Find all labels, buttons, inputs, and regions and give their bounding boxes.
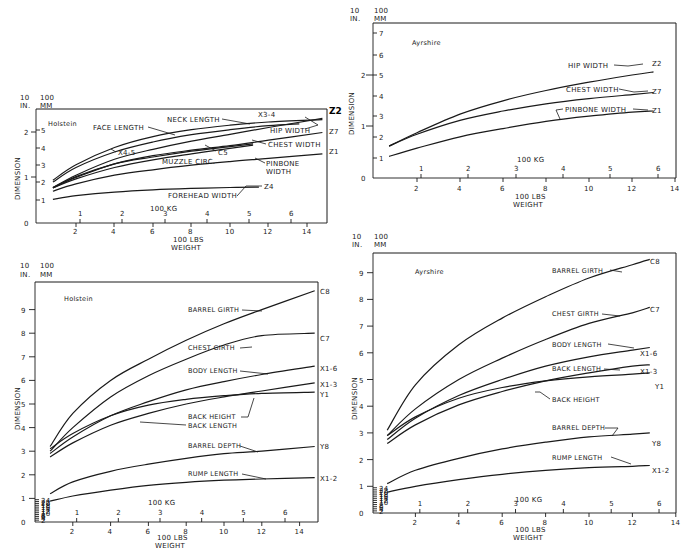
svg-text:CHEST WIDTH: CHEST WIDTH	[566, 86, 619, 94]
y-units-in-label: IN.	[20, 271, 30, 279]
y-units-mm-label: MM	[374, 241, 387, 249]
svg-text:6: 6	[289, 210, 294, 218]
y-axis-label: DIMENSION	[14, 157, 22, 200]
svg-text:HIP WIDTH: HIP WIDTH	[270, 127, 310, 135]
svg-text:4: 4	[41, 145, 46, 153]
svg-text:X1-2: X1-2	[652, 467, 669, 475]
svg-text:8: 8	[188, 228, 193, 236]
plot-frame	[35, 282, 318, 522]
svg-text:0: 0	[24, 220, 29, 228]
svg-text:Z1: Z1	[652, 107, 662, 115]
svg-text:6: 6	[499, 519, 504, 527]
svg-text:9: 9	[359, 270, 364, 278]
svg-text:6: 6	[145, 528, 150, 536]
plot-frame	[373, 253, 676, 513]
x2-axis-label: 100 KG	[515, 496, 542, 504]
svg-text:10: 10	[219, 528, 229, 536]
svg-text:1: 1	[24, 174, 29, 182]
svg-text:0: 0	[361, 175, 366, 183]
x-kg-ticks: 1 2 3 4 5 6	[419, 165, 661, 178]
svg-text:MUZZLE CIRC.: MUZZLE CIRC.	[162, 158, 215, 166]
svg-text:6: 6	[21, 377, 26, 385]
svg-text:3: 3	[379, 113, 384, 121]
y-axis-label: DIMENSION	[348, 92, 356, 135]
series-labels: BARREL GIRTH C8 CHEST GIRTH C7 BODY LENG…	[140, 288, 338, 483]
svg-text:FACE LENGTH: FACE LENGTH	[93, 124, 144, 132]
svg-text:14: 14	[670, 185, 680, 193]
chart-ayrshire-widths: 10 IN. 100 MM Ayrshire DIMENSION 0 1 2 1…	[348, 7, 680, 209]
svg-text:FOREHEAD WIDTH: FOREHEAD WIDTH	[168, 192, 237, 200]
svg-text:2: 2	[412, 519, 417, 527]
svg-text:6: 6	[150, 228, 155, 236]
svg-text:BACK LENGTH: BACK LENGTH	[552, 365, 601, 373]
chart-holstein-lengths: 10 IN. 100 MM Holstein DIMENSION 0123456…	[14, 262, 338, 550]
y-axis-label: DIMENSION	[351, 377, 359, 420]
y-units-mm-value: 100	[40, 262, 54, 270]
svg-text:C8: C8	[650, 258, 660, 266]
curves	[50, 291, 315, 502]
svg-text:2: 2	[414, 185, 419, 193]
breed-label: Ayrshire	[415, 268, 444, 276]
svg-text:6: 6	[500, 185, 505, 193]
svg-text:6: 6	[283, 509, 288, 517]
series-line	[389, 93, 653, 147]
svg-text:1: 1	[359, 483, 364, 491]
svg-text:1: 1	[361, 123, 366, 131]
svg-text:CHEST GIRTH: CHEST GIRTH	[188, 344, 235, 352]
svg-text:2: 2	[120, 210, 125, 218]
y-units-in-label: IN.	[350, 15, 360, 23]
svg-text:4: 4	[561, 165, 566, 173]
svg-text:2: 2	[73, 228, 78, 236]
svg-text:5: 5	[241, 509, 246, 517]
svg-text:3: 3	[514, 165, 519, 173]
svg-text:4: 4	[561, 500, 566, 508]
y-units-in-label: IN.	[352, 241, 362, 249]
svg-text:BODY LENGTH: BODY LENGTH	[188, 367, 238, 375]
svg-text:Y8: Y8	[319, 443, 329, 451]
svg-text:C7: C7	[650, 306, 660, 314]
svg-text:3: 3	[21, 448, 26, 456]
svg-text:8: 8	[21, 330, 26, 338]
svg-text:BODY LENGTH: BODY LENGTH	[552, 341, 602, 349]
breed-label: Ayrshire	[412, 39, 441, 47]
svg-text:CHEST WIDTH: CHEST WIDTH	[268, 141, 321, 149]
x2-axis-label: 100 KG	[148, 499, 175, 507]
svg-text:5: 5	[21, 401, 26, 409]
svg-text:RUMP LENGTH: RUMP LENGTH	[188, 470, 238, 478]
chart-ayrshire-lengths: 10 IN. 100 MM Ayrshire DIMENSION 0123456…	[351, 233, 681, 542]
series-line	[50, 383, 315, 457]
svg-text:Y1: Y1	[319, 391, 329, 399]
x2-axis-label: 100 KG	[517, 156, 544, 164]
svg-text:3: 3	[158, 509, 163, 517]
svg-text:X1-6: X1-6	[320, 365, 338, 373]
x-axis-label-weight: WEIGHT	[171, 244, 202, 252]
svg-text:6: 6	[379, 52, 384, 60]
svg-text:1: 1	[21, 495, 26, 503]
series-labels: HIP WIDTH Z2 CHEST WIDTH Z7 PINBONE WIDT…	[556, 60, 662, 119]
svg-text:12: 12	[627, 519, 637, 527]
y-units-in-value: 10	[20, 262, 30, 270]
y-units-in-value: 10	[352, 233, 362, 241]
svg-text:C5: C5	[218, 149, 228, 157]
svg-text:5: 5	[41, 127, 46, 135]
svg-text:C8: C8	[320, 288, 330, 296]
x-axis-label-weight: WEIGHT	[513, 201, 544, 209]
svg-text:RUMP LENGTH: RUMP LENGTH	[552, 454, 602, 462]
svg-text:1: 1	[75, 509, 80, 517]
svg-text:4: 4	[21, 425, 26, 433]
breed-label: Holstein	[64, 295, 93, 303]
svg-text:12: 12	[263, 228, 273, 236]
svg-text:5: 5	[379, 72, 384, 80]
series-labels: BARREL GIRTH C8 CHEST GIRTH C7 BODY LENG…	[535, 258, 669, 475]
y-units-mm-value: 100	[40, 94, 54, 102]
svg-text:4: 4	[205, 210, 210, 218]
svg-text:X1-3: X1-3	[320, 381, 337, 389]
figure-canvas: 10 IN. 100 MM Holstein DIMENSION 0 1 2 1…	[0, 0, 690, 557]
svg-text:BACK LENGTH: BACK LENGTH	[188, 422, 237, 430]
svg-text:X3-4: X3-4	[258, 111, 276, 119]
svg-text:7: 7	[21, 354, 26, 362]
svg-text:10: 10	[584, 519, 594, 527]
svg-text:7: 7	[379, 30, 384, 38]
svg-text:4: 4	[200, 509, 205, 517]
svg-text:6: 6	[656, 165, 661, 173]
